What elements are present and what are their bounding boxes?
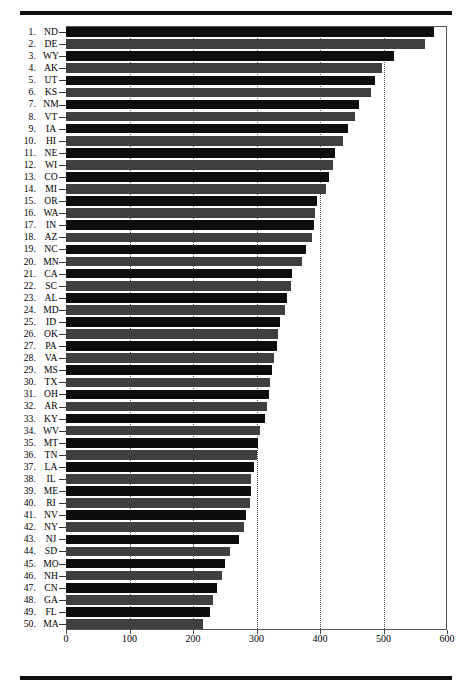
bar-row[interactable]: 49.FL (0, 606, 473, 618)
bar[interactable] (66, 547, 230, 557)
bar[interactable] (66, 329, 278, 339)
bar-row[interactable]: 24.MD (0, 304, 473, 316)
bar-row[interactable]: 38.IL (0, 473, 473, 485)
bar-row[interactable]: 2.DE (0, 38, 473, 50)
bar-row[interactable]: 37.LA (0, 461, 473, 473)
bar-row[interactable]: 33.KY (0, 413, 473, 425)
bar-row[interactable]: 7.NM (0, 98, 473, 110)
bar[interactable] (66, 76, 375, 86)
bar[interactable] (66, 124, 348, 134)
bar[interactable] (66, 196, 317, 206)
bar[interactable] (66, 208, 315, 218)
bar[interactable] (66, 535, 239, 545)
bar[interactable] (66, 486, 251, 496)
bar-row[interactable]: 19.NC (0, 243, 473, 255)
bar[interactable] (66, 559, 225, 569)
bar-row[interactable]: 18.AZ (0, 231, 473, 243)
bar[interactable] (66, 474, 251, 484)
bar[interactable] (66, 136, 343, 146)
bar[interactable] (66, 619, 203, 629)
bar-row[interactable]: 42.NY (0, 521, 473, 533)
bar-row[interactable]: 21.CA (0, 268, 473, 280)
bar-row[interactable]: 4.AK (0, 62, 473, 74)
bar[interactable] (66, 27, 434, 37)
bar[interactable] (66, 414, 265, 424)
bar-row[interactable]: 47.CN (0, 582, 473, 594)
bar[interactable] (66, 233, 312, 243)
bar-row[interactable]: 13.CO (0, 171, 473, 183)
bar-row[interactable]: 5.UT (0, 74, 473, 86)
bar[interactable] (66, 88, 371, 98)
bar[interactable] (66, 269, 292, 279)
bar[interactable] (66, 498, 250, 508)
bar[interactable] (66, 462, 254, 472)
bar[interactable] (66, 450, 257, 460)
bar[interactable] (66, 341, 277, 351)
bar-row[interactable]: 34.WV (0, 425, 473, 437)
bar-row[interactable]: 48.GA (0, 594, 473, 606)
bar-row[interactable]: 8.VT (0, 111, 473, 123)
bar-row[interactable]: 9.IA (0, 123, 473, 135)
bar[interactable] (66, 160, 333, 170)
bar-row[interactable]: 50.MA (0, 618, 473, 630)
bar[interactable] (66, 522, 244, 532)
bar-row[interactable]: 28.VA (0, 352, 473, 364)
bar[interactable] (66, 317, 280, 327)
bar[interactable] (66, 583, 217, 593)
bar[interactable] (66, 257, 302, 267)
bar[interactable] (66, 365, 272, 375)
bar[interactable] (66, 438, 258, 448)
bar[interactable] (66, 39, 425, 49)
bar-row[interactable]: 11.NE (0, 147, 473, 159)
bar-row[interactable]: 23.AL (0, 292, 473, 304)
bar[interactable] (66, 245, 306, 255)
bar-row[interactable]: 22.SC (0, 280, 473, 292)
bar[interactable] (66, 571, 222, 581)
bar[interactable] (66, 353, 274, 363)
bar-row[interactable]: 10.HI (0, 135, 473, 147)
bar-row[interactable]: 3.WY (0, 50, 473, 62)
bar[interactable] (66, 426, 260, 436)
bar-row[interactable]: 36.TN (0, 449, 473, 461)
bar-row[interactable]: 46.NH (0, 570, 473, 582)
bar[interactable] (66, 51, 394, 61)
bar[interactable] (66, 112, 355, 122)
bar-row[interactable]: 27.PA (0, 340, 473, 352)
bar-row[interactable]: 15.OR (0, 195, 473, 207)
bar-row[interactable]: 20.MN (0, 256, 473, 268)
bar[interactable] (66, 510, 246, 520)
bar-row[interactable]: 25.ID (0, 316, 473, 328)
bar-row[interactable]: 6.KS (0, 86, 473, 98)
bar-row[interactable]: 14.MI (0, 183, 473, 195)
bar-row[interactable]: 41.NV (0, 509, 473, 521)
bar[interactable] (66, 100, 359, 110)
bar-row[interactable]: 35.MT (0, 437, 473, 449)
bar[interactable] (66, 281, 291, 291)
bar[interactable] (66, 595, 213, 605)
bar[interactable] (66, 607, 210, 617)
bar-row[interactable]: 40.RI (0, 497, 473, 509)
bar[interactable] (66, 184, 326, 194)
bar[interactable] (66, 220, 314, 230)
bar-row[interactable]: 29.MS (0, 364, 473, 376)
bar-row[interactable]: 26.OK (0, 328, 473, 340)
bar[interactable] (66, 305, 285, 315)
bar[interactable] (66, 172, 329, 182)
bar-row[interactable]: 44.SD (0, 545, 473, 557)
bar-row[interactable]: 45.MO (0, 558, 473, 570)
bar-row[interactable]: 32.AR (0, 400, 473, 412)
bar-row[interactable]: 30.TX (0, 376, 473, 388)
bar-row[interactable]: 31.OH (0, 388, 473, 400)
bar-row[interactable]: 17.IN (0, 219, 473, 231)
bar[interactable] (66, 390, 269, 400)
bar[interactable] (66, 148, 335, 158)
bar[interactable] (66, 293, 287, 303)
bar[interactable] (66, 63, 382, 73)
bar[interactable] (66, 402, 267, 412)
bar[interactable] (66, 378, 270, 388)
bar-row[interactable]: 39.ME (0, 485, 473, 497)
bar-row[interactable]: 43.NJ (0, 533, 473, 545)
bar-row[interactable]: 12.WI (0, 159, 473, 171)
bar-row[interactable]: 1.ND (0, 26, 473, 38)
bar-row[interactable]: 16.WA (0, 207, 473, 219)
